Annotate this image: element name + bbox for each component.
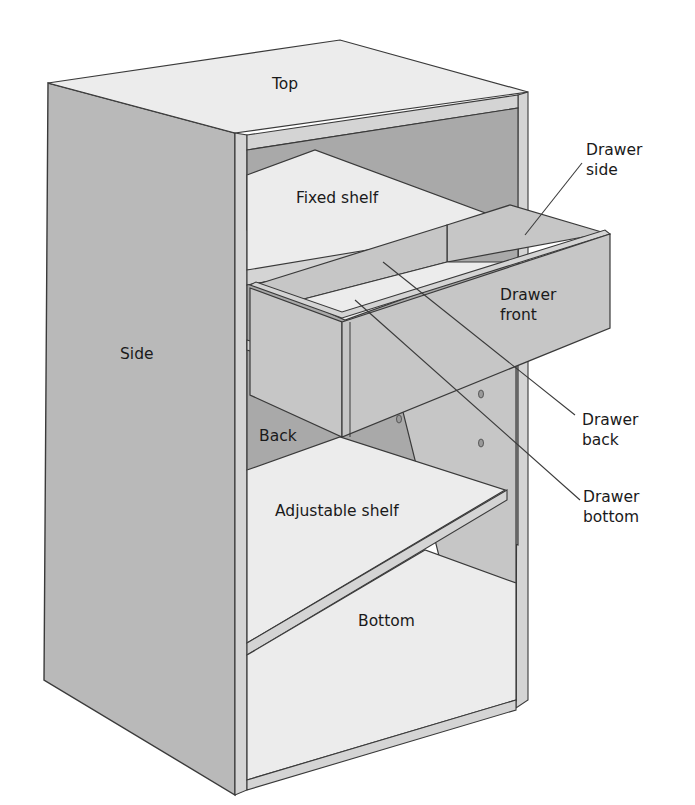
label-side: Side xyxy=(120,345,154,363)
label-drawer-back-2: back xyxy=(582,431,619,449)
label-drawer-front-1: Drawer xyxy=(500,286,557,304)
label-drawer-bottom-1: Drawer xyxy=(583,488,640,506)
side-panel xyxy=(44,83,235,795)
cabinet-diagram: Top Fixed shelf Side Back Adjustable she… xyxy=(0,0,695,805)
side-front-edge xyxy=(235,133,247,795)
label-adjustable-shelf: Adjustable shelf xyxy=(275,502,399,520)
shelf-pin-hole xyxy=(479,390,484,398)
label-back: Back xyxy=(259,427,297,445)
label-drawer-front-2: front xyxy=(500,306,537,324)
label-drawer-side-2: side xyxy=(586,161,618,179)
label-top: Top xyxy=(271,75,298,93)
label-drawer-bottom-2: bottom xyxy=(583,508,639,526)
label-drawer-side-1: Drawer xyxy=(586,141,643,159)
shelf-pin-hole xyxy=(479,439,484,447)
label-fixed-shelf: Fixed shelf xyxy=(296,189,379,207)
shelf-pin-hole xyxy=(397,415,402,423)
label-drawer-back-1: Drawer xyxy=(582,411,639,429)
label-bottom: Bottom xyxy=(358,612,415,630)
